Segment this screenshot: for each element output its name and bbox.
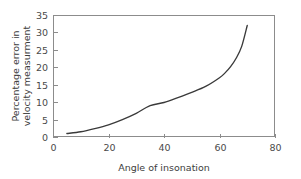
x-tick-label: 20 bbox=[103, 142, 115, 153]
x-tick-label: 80 bbox=[269, 142, 281, 153]
y-tick-label: 15 bbox=[36, 80, 48, 91]
y-axis-title-line-2: velocity measurment bbox=[21, 25, 32, 126]
x-axis-title: Angle of insonation bbox=[118, 162, 210, 173]
y-tick-label: 5 bbox=[42, 115, 48, 126]
line-chart: 05101520253035 020406080 Angle of insona… bbox=[0, 0, 301, 179]
y-tick-label: 30 bbox=[36, 27, 48, 38]
x-tick-label: 40 bbox=[158, 142, 170, 153]
y-axis-title-line-1: Percentage error in bbox=[10, 30, 21, 121]
y-tick-label: 0 bbox=[42, 132, 48, 143]
y-tick-label: 35 bbox=[36, 10, 48, 21]
y-tick-label: 10 bbox=[36, 97, 48, 108]
y-tick-label: 20 bbox=[36, 62, 48, 73]
x-tick-label: 60 bbox=[214, 142, 226, 153]
y-tick-label: 25 bbox=[36, 45, 48, 56]
x-tick-label: 0 bbox=[50, 142, 56, 153]
chart-figure: 05101520253035 020406080 Angle of insona… bbox=[0, 0, 301, 179]
